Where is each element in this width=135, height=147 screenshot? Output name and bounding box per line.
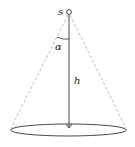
base-ellipse xyxy=(11,124,127,136)
cone-diagram: s α h xyxy=(0,0,135,147)
angle-label: α xyxy=(55,41,62,52)
cone-right-edge xyxy=(70,15,126,128)
height-label: h xyxy=(74,75,80,86)
angle-arc xyxy=(57,37,69,39)
source-label: s xyxy=(58,6,63,17)
cone-left-edge xyxy=(11,15,68,128)
source-point xyxy=(67,10,72,15)
